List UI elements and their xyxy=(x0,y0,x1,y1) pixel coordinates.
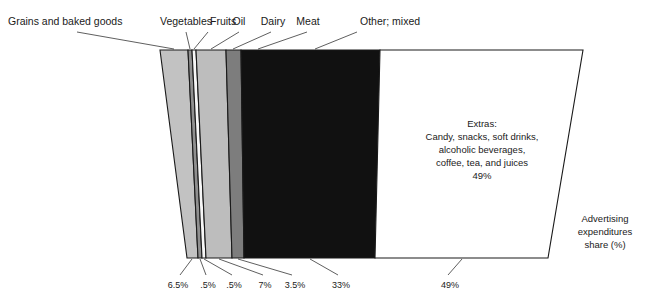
label-meat: Meat xyxy=(296,15,319,27)
leader-oil-pct xyxy=(219,259,263,275)
chart-canvas: Grains and baked goods Vegetables Fruits… xyxy=(0,0,648,302)
pct-oil: 7% xyxy=(258,280,271,290)
bottom-leader-lines xyxy=(180,259,462,275)
axis-caption: Advertising expenditures share (%) xyxy=(578,213,633,250)
pct-meat: 33% xyxy=(332,280,350,290)
leader-oil xyxy=(211,32,239,49)
top-category-labels: Grains and baked goods Vegetables Fruits… xyxy=(8,15,420,27)
funnel-chart: Grains and baked goods Vegetables Fruits… xyxy=(0,0,648,302)
pct-grains: 6.5% xyxy=(168,280,189,290)
pct-fruits: .5% xyxy=(226,280,242,290)
leader-fruits-pct xyxy=(204,259,232,275)
leader-vegetables-pct xyxy=(200,259,206,275)
leader-vegetables xyxy=(186,32,190,49)
extras-line-5: 49% xyxy=(472,170,492,181)
leader-meat-pct xyxy=(310,259,338,275)
leader-grains-pct xyxy=(180,259,192,275)
axis-caption-line-3: share (%) xyxy=(584,239,625,250)
extras-line-3: alcoholic beverages, xyxy=(439,144,526,155)
segment-meat[interactable] xyxy=(241,50,380,258)
leader-other-pct xyxy=(448,259,462,275)
pct-vegetables: .5% xyxy=(200,280,216,290)
leader-dairy-pct xyxy=(238,259,292,275)
top-leader-lines xyxy=(77,32,357,49)
label-dairy: Dairy xyxy=(261,15,286,27)
leader-fruits xyxy=(194,32,208,49)
axis-caption-line-2: expenditures xyxy=(578,226,633,237)
label-grains: Grains and baked goods xyxy=(8,15,122,27)
leader-other xyxy=(315,32,357,49)
extras-line-4: coffee, tea, and juices xyxy=(436,157,528,168)
bottom-percent-labels: 6.5% .5% .5% 7% 3.5% 33% 49% xyxy=(168,280,459,290)
label-vegetables: Vegetables xyxy=(160,15,212,27)
extras-line-2: Candy, snacks, soft drinks, xyxy=(426,131,539,142)
extras-line-1: Extras: xyxy=(467,118,497,129)
axis-caption-line-1: Advertising xyxy=(582,213,629,224)
label-other: Other; mixed xyxy=(360,15,420,27)
leader-grains xyxy=(77,32,174,49)
label-oil: Oil xyxy=(233,15,246,27)
pct-other: 49% xyxy=(441,280,459,290)
pct-dairy: 3.5% xyxy=(285,280,306,290)
